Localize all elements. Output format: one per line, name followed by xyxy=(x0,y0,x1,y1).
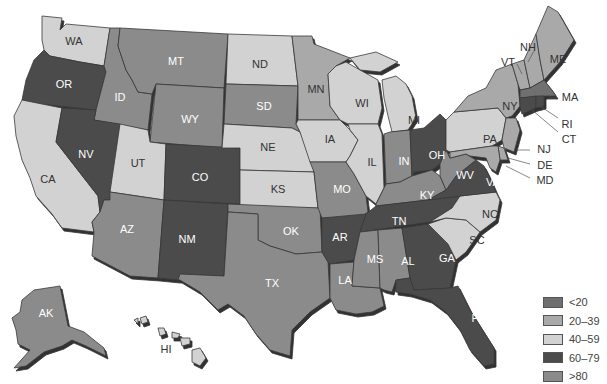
legend-label: 20–39 xyxy=(569,315,600,327)
label-fl: FL xyxy=(472,312,485,324)
label-md: MD xyxy=(536,174,553,186)
legend-swatch xyxy=(543,371,563,382)
state-me[interactable] xyxy=(536,6,574,80)
label-sd: SD xyxy=(256,100,271,112)
label-al: AL xyxy=(401,255,414,267)
label-tx: TX xyxy=(265,277,280,289)
label-ms: MS xyxy=(367,253,384,265)
legend-label: >80 xyxy=(569,370,588,382)
label-id: ID xyxy=(115,91,126,103)
label-hi: HI xyxy=(161,343,172,355)
label-wi: WI xyxy=(355,97,368,109)
legend-item-lt20: <20 xyxy=(543,293,607,312)
label-nj: NJ xyxy=(537,143,550,155)
label-mo: MO xyxy=(333,183,351,195)
label-tn: TN xyxy=(392,215,407,227)
label-mn: MN xyxy=(307,83,324,95)
legend-item-40-59: 40–59 xyxy=(543,330,607,349)
label-de: DE xyxy=(537,159,552,171)
legend-swatch xyxy=(543,315,563,326)
label-la: LA xyxy=(338,274,352,286)
label-ky: KY xyxy=(420,189,435,201)
state-az[interactable] xyxy=(92,192,164,278)
legend-swatch xyxy=(543,352,563,363)
label-ny: NY xyxy=(502,100,518,112)
label-wy: WY xyxy=(181,113,199,125)
label-ca: CA xyxy=(40,173,56,185)
label-ri: RI xyxy=(562,118,573,130)
label-nh: NH xyxy=(520,41,536,53)
legend-item-gt80: >80 xyxy=(543,367,607,384)
label-nd: ND xyxy=(252,58,268,70)
label-nv: NV xyxy=(78,148,94,160)
label-ct: CT xyxy=(562,133,577,145)
label-pa: PA xyxy=(483,133,498,145)
legend-label: <20 xyxy=(569,296,588,308)
label-az: AZ xyxy=(120,223,134,235)
label-il: IL xyxy=(367,156,376,168)
label-ks: KS xyxy=(271,183,286,195)
label-wv: WV xyxy=(456,169,474,181)
state-pa[interactable] xyxy=(446,108,506,152)
legend-label: 40–59 xyxy=(569,333,600,345)
label-nm: NM xyxy=(178,233,195,245)
label-ak: AK xyxy=(39,307,54,319)
label-wa: WA xyxy=(65,35,83,47)
label-co: CO xyxy=(192,171,209,183)
legend-item-20-39: 20–39 xyxy=(543,312,607,331)
label-ga: GA xyxy=(439,252,456,264)
label-va: VA xyxy=(486,176,501,188)
legend-item-60-79: 60–79 xyxy=(543,349,607,368)
label-ia: IA xyxy=(325,133,336,145)
label-oh: OH xyxy=(429,149,446,161)
label-nc: NC xyxy=(482,208,498,220)
legend-swatch xyxy=(543,297,563,308)
label-ma: MA xyxy=(562,91,579,103)
label-ar: AR xyxy=(332,231,347,243)
state-ak[interactable] xyxy=(12,286,106,368)
label-or: OR xyxy=(56,78,73,90)
label-ut: UT xyxy=(131,157,146,169)
legend-label: 60–79 xyxy=(569,352,600,364)
legend-swatch xyxy=(543,334,563,345)
label-in: IN xyxy=(399,155,410,167)
label-ok: OK xyxy=(283,225,300,237)
label-mt: MT xyxy=(168,55,184,67)
state-nj[interactable] xyxy=(502,118,520,152)
us-choropleth-map: WA OR CA ID NV MT WY UT AZ CO NM ND SD N… xyxy=(0,0,607,384)
label-me: ME xyxy=(550,53,567,65)
state-hi[interactable] xyxy=(134,316,206,366)
label-vt: VT xyxy=(501,56,515,68)
label-ne: NE xyxy=(260,141,275,153)
legend: <20 20–39 40–59 60–79 >80 xyxy=(543,293,607,384)
label-mi: MI xyxy=(408,114,420,126)
label-sc: SC xyxy=(469,234,484,246)
